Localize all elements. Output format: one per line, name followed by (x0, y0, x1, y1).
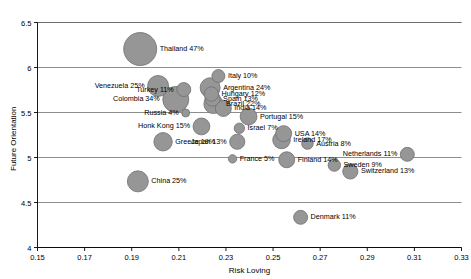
bubble-point[interactable] (177, 83, 191, 97)
bubble-label: Japan 13% (191, 138, 227, 146)
bubble-label: Thailand 47% (160, 45, 204, 53)
x-tick-label: 0.19 (124, 253, 139, 262)
bubble-point[interactable] (276, 126, 292, 142)
bubble-point[interactable] (182, 109, 190, 117)
bubble-point[interactable] (212, 70, 225, 83)
x-tick-label: 0.33 (454, 253, 469, 262)
x-tick-label: 0.23 (219, 253, 234, 262)
bubble-label: Italy 10% (228, 72, 258, 80)
x-tick-label: 0.17 (77, 253, 92, 262)
plot-area (0, 0, 471, 279)
bubble-point[interactable] (294, 210, 308, 224)
x-tick-label: 0.31 (407, 253, 422, 262)
gridlines (38, 23, 462, 248)
x-tick-label: 0.27 (313, 253, 328, 262)
bubble-point[interactable] (204, 87, 218, 101)
y-tick-label: 6.5 (0, 18, 32, 27)
bubble-label: Russia 4% (144, 109, 178, 117)
axis-lines (38, 23, 462, 248)
bubble-label: Israel 7% (248, 124, 278, 132)
x-tick-label: 0.15 (30, 253, 45, 262)
y-tick-label: 4.5 (0, 198, 32, 207)
x-axis-title: Risk Loving (229, 266, 270, 275)
bubble-label: China 25% (151, 177, 186, 185)
x-tick-label: 0.25 (266, 253, 281, 262)
bubble-point[interactable] (279, 152, 295, 168)
y-axis-title: Future Orientation (9, 107, 18, 171)
bubble-point[interactable] (193, 118, 210, 135)
bubble-label: Netherlands 11% (343, 150, 398, 158)
bubble-point[interactable] (230, 134, 245, 149)
bubble-label: Austria 8% (316, 140, 351, 148)
bubble-label: France 5% (240, 155, 275, 163)
bubble-label: Switzerland 13% (361, 167, 415, 175)
bubble-label: Turkey 11% (136, 86, 174, 94)
x-tick-label: 0.29 (360, 253, 375, 262)
bubble-point[interactable] (154, 133, 172, 151)
y-tick-label: 6 (0, 63, 32, 72)
axis-ticks (34, 23, 462, 252)
bubble-label: Portugal 15% (260, 113, 303, 121)
bubble-point[interactable] (234, 123, 244, 133)
bubble-label: Honk Kong 15% (138, 122, 190, 130)
bubble-label: Colombia 34% (113, 95, 160, 103)
bubble-point[interactable] (400, 147, 414, 161)
x-tick-label: 0.21 (172, 253, 187, 262)
bubble-point[interactable] (124, 33, 157, 66)
bubble-label: Finland 14% (298, 156, 338, 164)
bubble-point[interactable] (228, 155, 236, 163)
y-tick-label: 4 (0, 243, 32, 252)
bubble-point[interactable] (127, 171, 148, 192)
bubble-chart: 44.555.566.50.150.170.190.210.230.250.27… (0, 0, 471, 279)
bubble-label: Denmark 11% (311, 213, 356, 221)
